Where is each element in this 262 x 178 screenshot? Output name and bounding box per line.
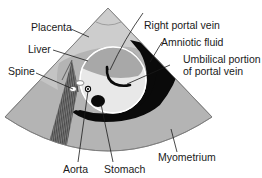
right-portal-vein-label: Right portal vein	[144, 19, 220, 31]
liver-label: Liver	[28, 43, 51, 55]
placenta-label: Placenta	[31, 21, 72, 33]
stomach-label: Stomach	[104, 163, 146, 175]
spine-label: Spine	[8, 65, 35, 77]
aorta-label: Aorta	[63, 163, 88, 175]
myometrium-label: Myometrium	[158, 151, 216, 163]
amniotic-fluid-label: Amniotic fluid	[161, 36, 224, 48]
ultrasound-diagram: Placenta Liver Spine Right portal vein A…	[0, 0, 262, 178]
umbilical-label-line1: Umbilical portion	[183, 53, 261, 65]
umbilical-label-line2: of portal vein	[183, 65, 243, 77]
stomach-marker	[91, 95, 105, 107]
